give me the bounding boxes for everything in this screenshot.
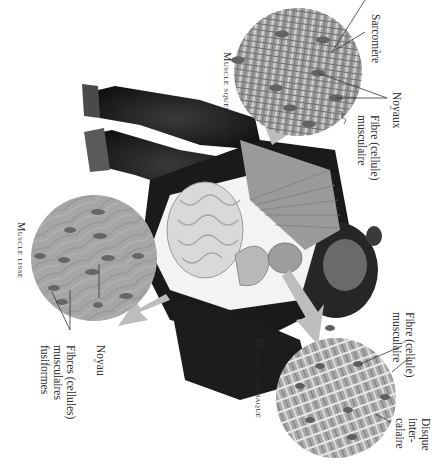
label-cardiac-fiber: Fibre (cellule) musculaire <box>390 312 416 377</box>
skeletal-muscle-title: Muscle squelettique <box>221 52 234 144</box>
heart <box>268 243 302 273</box>
smooth-muscle-title: Muscle lisse <box>15 222 28 278</box>
skeletal-muscle-magnified <box>234 8 362 136</box>
label-skeletal-fiber: Fibre (cellule) musculaire <box>355 115 381 180</box>
label-nuclei: Noyaux <box>390 92 403 128</box>
label-intercalated-disc: Disque inter- calaire <box>393 418 432 451</box>
label-smooth-fibers: Fibres (cellules) musculaires fusiformes <box>38 345 77 419</box>
label-sarcomere: Sarcomère <box>369 14 382 63</box>
cardiac-muscle-title: Muscle cardiaque <box>253 338 266 418</box>
label-smooth-nucleus: Noyau <box>94 345 107 376</box>
